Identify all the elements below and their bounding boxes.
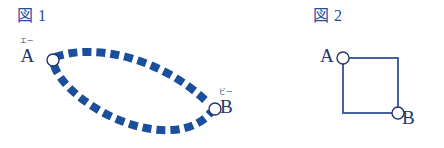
figure-1-label-a: エー A	[20, 38, 35, 65]
figure-2-square-path	[343, 58, 398, 113]
figure-2-graphic	[250, 0, 444, 148]
figure-1-label-b-ruby: ビー	[219, 89, 234, 96]
figure-1-label-a-ruby: エー	[20, 38, 35, 45]
figure-1-edge-upper	[55, 52, 205, 100]
figure-1-edge-lower	[54, 65, 211, 130]
figure-2-node-a	[337, 52, 349, 64]
figure-2-label-b: B	[402, 108, 415, 127]
figure-1-node-a	[47, 54, 59, 66]
figure-1-label-b-base: B	[219, 97, 234, 116]
figure-1-label-b: ビー B	[219, 89, 234, 116]
diagram-canvas: 図 1 エー A ビー B 図 2	[0, 0, 444, 148]
figure-2-label-a: A	[320, 46, 334, 65]
figure-1-label-a-base: A	[20, 46, 35, 65]
figure-2-panel: 図 2 A B	[250, 0, 444, 148]
figure-1-graphic	[0, 0, 250, 148]
figure-1-panel: 図 1 エー A ビー B	[0, 0, 250, 148]
